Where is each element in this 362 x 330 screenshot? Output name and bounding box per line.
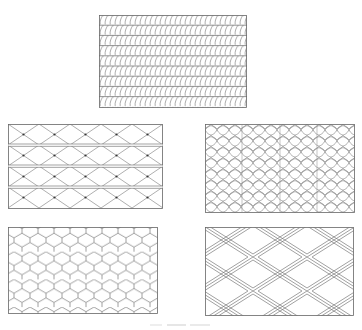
curved-scale-drawing — [205, 124, 355, 213]
diamond-lattice-drawing — [8, 124, 163, 209]
panel-diamond-lattice-pattern — [8, 124, 163, 209]
panel-curved-scale-pattern — [205, 124, 355, 213]
faint-caption-text — [150, 324, 210, 326]
panel-hexagon-pattern — [8, 227, 158, 314]
double-line-diamond-drawing — [205, 227, 354, 316]
panel-slanted-curl-pattern — [99, 15, 247, 108]
panel-double-line-diamond-pattern — [205, 227, 354, 316]
hexagon-honeycomb-drawing — [8, 227, 158, 314]
slanted-curl-pattern-drawing — [99, 15, 247, 108]
